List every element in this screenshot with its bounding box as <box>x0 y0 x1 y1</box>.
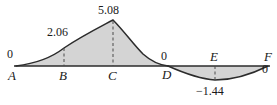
station-label-c: C <box>108 69 117 82</box>
value-label-b: 2.06 <box>47 26 68 38</box>
value-label-zero-d: 0 <box>161 50 167 62</box>
moment-diagram-figure: 0 2.06 5.08 0 0 −1.44 A B C D E F <box>0 0 277 105</box>
value-label-zero-left: 0 <box>7 48 13 60</box>
station-label-a: A <box>8 69 16 82</box>
station-label-f: F <box>264 50 272 63</box>
value-label-e: −1.44 <box>196 85 224 97</box>
positive-area-fill <box>16 20 168 66</box>
diagram-canvas <box>0 0 277 105</box>
station-label-e: E <box>210 50 218 63</box>
station-label-d: D <box>162 68 171 81</box>
value-label-zero-right: 0 <box>262 63 268 75</box>
station-label-b: B <box>59 69 67 82</box>
value-label-c: 5.08 <box>98 4 119 16</box>
